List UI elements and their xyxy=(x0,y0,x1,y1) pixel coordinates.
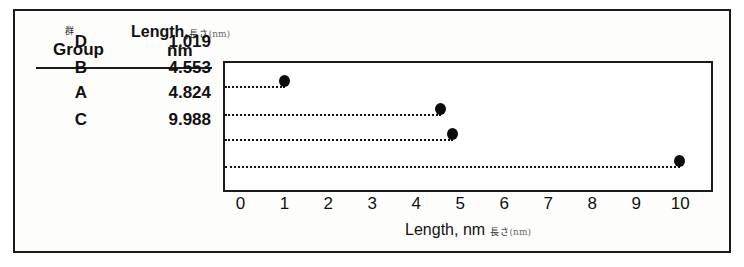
x-tick-label: 4 xyxy=(412,194,421,214)
data-point-marker xyxy=(279,75,290,87)
table-cell-value: 1.019 xyxy=(127,29,211,55)
leader-line xyxy=(225,86,285,88)
x-axis-label: Length, nm 長さ(nm) xyxy=(223,220,713,242)
leader-line xyxy=(225,139,453,141)
table-cell-value: 9.988 xyxy=(127,107,211,133)
table-row: C9.988 xyxy=(19,107,219,133)
x-tick-label: 9 xyxy=(631,194,640,214)
x-tick-label: 0 xyxy=(236,194,245,214)
table-row: A4.824 xyxy=(19,80,219,106)
x-tick-label: 10 xyxy=(671,194,690,214)
x-tick-label: 2 xyxy=(324,194,333,214)
table-cell-group: A xyxy=(63,80,99,106)
x-tick-label: 5 xyxy=(456,194,465,214)
x-axis-label-en: Length, nm xyxy=(405,221,485,238)
table-cell-group: D xyxy=(63,29,99,55)
table-row: D1.019 xyxy=(19,29,219,55)
x-tick-label: 8 xyxy=(588,194,597,214)
data-point-marker xyxy=(435,103,446,115)
leader-line xyxy=(225,166,680,168)
table-cell-group: C xyxy=(63,107,99,133)
table-cell-group: B xyxy=(63,55,99,81)
x-tick-label: 3 xyxy=(368,194,377,214)
x-tick-label: 7 xyxy=(544,194,553,214)
table-cell-value: 4.553 xyxy=(127,55,211,81)
table-row: B4.553 xyxy=(19,55,219,81)
leader-line xyxy=(225,114,441,116)
x-tick-label: 6 xyxy=(500,194,509,214)
x-axis-label-jp: 長さ xyxy=(490,227,510,237)
x-axis-ticks: 012345678910 xyxy=(223,194,713,218)
figure-frame: 群 Group Length,長さ(nm) nm D1.019B4.553A4.… xyxy=(13,9,731,253)
x-axis-label-paren: (nm) xyxy=(510,227,531,237)
x-tick-label: 1 xyxy=(280,194,289,214)
data-point-marker xyxy=(674,155,685,167)
data-table: 群 Group Length,長さ(nm) nm D1.019B4.553A4.… xyxy=(19,15,219,165)
table-cell-value: 4.824 xyxy=(127,80,211,106)
data-point-marker xyxy=(447,128,458,140)
plot-inner xyxy=(225,63,711,190)
plot-area xyxy=(223,61,713,192)
